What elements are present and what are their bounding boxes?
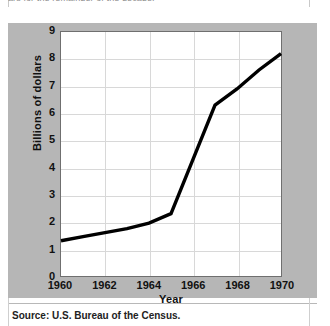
- x-tick-1968: 1968: [215, 279, 261, 291]
- footer-rule-left: [8, 298, 9, 326]
- data-line: [61, 32, 281, 276]
- y-axis-ticks: 0 1 2 3 4 5 6 7 8 9: [0, 31, 55, 277]
- y-tick-2: 2: [3, 215, 55, 227]
- y-tick-3: 3: [3, 188, 55, 200]
- plot-area: [60, 31, 282, 277]
- x-tick-1970: 1970: [259, 279, 305, 291]
- y-tick-8: 8: [3, 51, 55, 63]
- clipped-caption-text: ars for the remainder of the decade.: [8, 0, 155, 3]
- clipped-caption: ars for the remainder of the decade.: [8, 0, 310, 7]
- y-tick-9: 9: [3, 24, 55, 36]
- figure-container: ars for the remainder of the decade. Bil…: [0, 0, 330, 326]
- y-tick-5: 5: [3, 133, 55, 145]
- y-tick-4: 4: [3, 161, 55, 173]
- y-tick-6: 6: [3, 106, 55, 118]
- x-tick-1964: 1964: [126, 279, 172, 291]
- x-tick-1960: 1960: [37, 279, 83, 291]
- y-tick-1: 1: [3, 243, 55, 255]
- footer-divider: [8, 303, 317, 304]
- x-tick-1962: 1962: [81, 279, 127, 291]
- y-tick-7: 7: [3, 79, 55, 91]
- footer-rule-right: [309, 298, 310, 326]
- source-note: Source: U.S. Bureau of the Census.: [12, 310, 180, 321]
- x-tick-1966: 1966: [170, 279, 216, 291]
